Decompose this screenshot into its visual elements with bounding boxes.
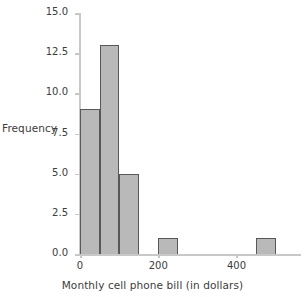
x-tick — [80, 254, 82, 258]
y-tick-label: 12.5 — [46, 46, 68, 57]
histogram-bar — [119, 174, 139, 254]
x-tick-label: 200 — [149, 260, 168, 271]
y-tick-label: 15.0 — [46, 6, 68, 17]
histogram-bar — [256, 238, 276, 254]
y-tick: 7.5 — [75, 134, 79, 136]
x-tick — [158, 254, 160, 258]
y-tick-label: 2.5 — [52, 207, 68, 218]
x-tick-label: 400 — [227, 260, 246, 271]
y-tick: 5.0 — [75, 174, 79, 176]
y-tick: 10.0 — [75, 93, 79, 95]
y-tick-label: 0.0 — [52, 247, 68, 258]
histogram-bar — [100, 45, 120, 254]
y-tick-label: 7.5 — [52, 127, 68, 138]
y-tick: 12.5 — [75, 53, 79, 55]
x-tick-label: 0 — [77, 260, 83, 271]
histogram-bar — [80, 109, 100, 254]
y-tick: 15.0 — [75, 13, 79, 15]
y-tick-label: 10.0 — [46, 86, 68, 97]
y-tick: 2.5 — [75, 214, 79, 216]
x-axis-line — [79, 254, 301, 256]
plot-area: 0.02.55.07.510.012.515.0 0200400 — [80, 13, 301, 254]
y-tick-label: 5.0 — [52, 167, 68, 178]
x-tick — [236, 254, 238, 258]
histogram-bar — [158, 238, 178, 254]
y-tick: 0.0 — [75, 254, 79, 256]
x-axis-label: Monthly cell phone bill (in dollars) — [0, 279, 305, 291]
histogram-chart: Frequency 0.02.55.07.510.012.515.0 02004… — [0, 0, 305, 297]
